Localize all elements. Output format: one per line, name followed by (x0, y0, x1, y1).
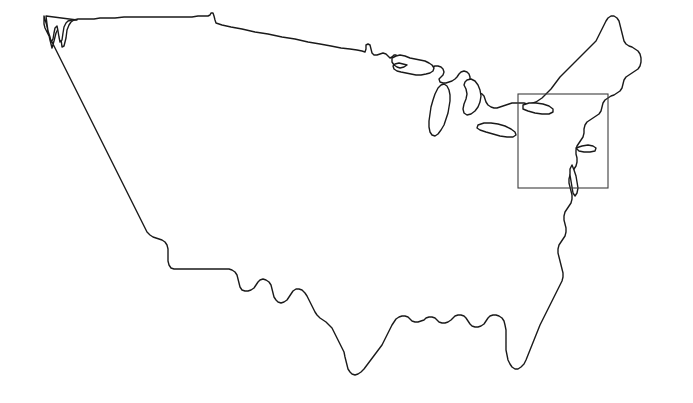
us-mainland-outline (44, 13, 641, 375)
long-island (576, 145, 596, 152)
lake-superior (392, 55, 434, 75)
us-outline-map (0, 0, 693, 403)
map-canvas (0, 0, 693, 403)
